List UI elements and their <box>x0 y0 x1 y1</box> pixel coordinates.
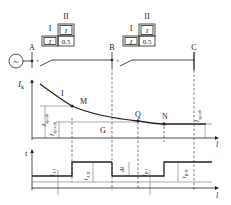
label-tb1: tB I <box>141 168 149 176</box>
relay-a: I II I I 0.5 <box>42 12 74 46</box>
label-delta-t: Δt <box>119 166 125 173</box>
breaker-b-icon: × <box>116 58 119 64</box>
relay-b-time-step <box>112 162 212 176</box>
relay-b-stage-ii-setting: I <box>145 27 149 35</box>
one-line-diagram: ~ A × B × C <box>9 43 197 70</box>
label-iop-qb-c: Iop.qb <box>194 109 202 123</box>
bus-c-label: C <box>191 43 196 52</box>
point-m-label: M <box>80 97 87 106</box>
x-axis-label-l-time: l <box>216 191 219 200</box>
relay-a-stage-ii-label: II <box>63 12 69 21</box>
current-plot: Ik l I M Q N G Iop.qb Iop.sqb Iop.qb <box>17 79 219 149</box>
relay-b-stage-ii-label: II <box>144 12 150 21</box>
relay-a-time-step <box>32 162 112 176</box>
breaker-a-icon: × <box>36 58 39 64</box>
label-ta1: tA I <box>49 169 57 176</box>
short-circuit-current-curve <box>40 84 206 124</box>
point-q-label: Q <box>135 110 141 119</box>
relay-b: I II I I 0.5 <box>123 12 155 46</box>
relay-a-stage-ii-time: 0.5 <box>62 38 71 46</box>
point-g-label: G <box>100 126 106 135</box>
relay-b-stage-i-label: I <box>130 24 133 33</box>
relay-b-stage-ii-time: 0.5 <box>143 38 152 46</box>
x-axis-label-l: l <box>216 140 219 149</box>
label-iop-sqb: Iop.sqb <box>49 121 57 137</box>
label-tb2: tB II <box>181 169 189 178</box>
bus-a-label: A <box>29 43 35 52</box>
time-plot: t l tA I tA II Δt tB I tB II <box>25 149 219 200</box>
relay-a-stage-ii-setting: I <box>64 27 68 35</box>
y-axis-label-ik: Ik <box>17 79 24 90</box>
point-n-label: N <box>162 112 168 121</box>
curve-label-i: I <box>61 89 64 98</box>
y-axis-label-t: t <box>25 149 28 158</box>
protection-coordination-diagram: ~ A × B × C I II I I 0.5 I II <box>0 0 231 205</box>
source-symbol: ~ <box>13 56 19 67</box>
relay-a-stage-i-label: I <box>49 24 52 33</box>
label-ta2: tA II <box>83 171 91 180</box>
label-iop-qb: Iop.qb <box>41 113 49 127</box>
bus-b-label: B <box>109 43 114 52</box>
